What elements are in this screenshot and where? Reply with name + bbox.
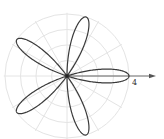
origin-point	[65, 74, 68, 77]
radius-tick-label: 4	[132, 78, 137, 87]
axis-arrow-icon	[149, 74, 156, 78]
polar-rose-chart: 4	[0, 0, 164, 139]
